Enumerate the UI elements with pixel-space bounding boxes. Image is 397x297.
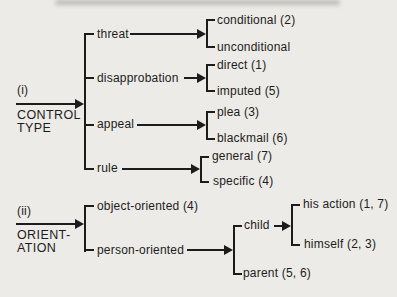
section-ii-index: (ii) [17, 205, 31, 218]
child-arrowhead-icon [282, 221, 291, 231]
leaf-general: general (7) [212, 150, 272, 163]
rule-bracket-bottom-tick [200, 181, 209, 183]
section-i-index: (i) [17, 84, 28, 97]
leaf-plea: plea (3) [217, 106, 259, 119]
leaf-imputed: imputed (5) [217, 85, 280, 98]
disapprobation-bracket-top-tick [206, 64, 215, 66]
leaf-unconditional: unconditional [217, 41, 290, 54]
section-i-title-line2: TYPE [17, 122, 51, 135]
leaf-specific: specific (4) [213, 175, 273, 188]
section-ii-root-arrow-line [16, 223, 75, 225]
rule-bracket-spine [200, 156, 202, 183]
branch-object-oriented-label: object-oriented (4) [97, 200, 198, 213]
person-oriented-tick [84, 249, 94, 251]
classification-tree-diagram: (i) CONTROL TYPE threat conditional (2) … [0, 0, 397, 297]
section-i-spine [84, 33, 86, 170]
leaf-conditional: conditional (2) [217, 14, 295, 27]
person-oriented-arrowhead-icon [224, 245, 233, 255]
object-oriented-tick [84, 205, 94, 207]
appeal-arrowhead-icon [197, 120, 206, 130]
section-ii-title-line2: ATION [17, 242, 56, 255]
branch-threat-label: threat [97, 28, 129, 41]
person-bracket-spine [233, 225, 235, 275]
threat-connector-line [130, 33, 197, 35]
threat-bracket-spine [206, 19, 208, 48]
leaf-direct: direct (1) [217, 59, 266, 72]
child-connector-line [274, 225, 282, 227]
child-bracket-bottom-tick [291, 244, 300, 246]
rule-arrowhead-icon [191, 164, 200, 174]
disapprobation-tick [84, 77, 94, 79]
child-bracket-spine [291, 204, 293, 246]
appeal-bracket-bottom-tick [206, 138, 215, 140]
section-i-root-arrow-line [16, 103, 75, 105]
leaf-parent: parent (5, 6) [243, 267, 311, 280]
rule-connector-line [122, 168, 191, 170]
appeal-tick [84, 124, 94, 126]
disapprobation-bracket-spine [206, 64, 208, 92]
child-tick [233, 225, 242, 227]
leaf-himself: himself (2, 3) [304, 238, 376, 251]
branch-appeal-label: appeal [97, 118, 134, 131]
parent-tick [233, 273, 242, 275]
section-ii-root-arrowhead-icon [75, 219, 84, 229]
threat-bracket-top-tick [206, 19, 215, 21]
rule-bracket-top-tick [200, 156, 209, 158]
threat-arrowhead-icon [197, 29, 206, 39]
appeal-bracket-spine [206, 111, 208, 140]
threat-bracket-bottom-tick [206, 46, 215, 48]
branch-disapprobation-label: disapprobation [97, 72, 179, 85]
leaf-blackmail: blackmail (6) [217, 132, 288, 145]
scan-smudge-artifact [55, 0, 340, 5]
disapprobation-connector-line [184, 77, 197, 79]
branch-person-oriented-label: person-oriented [97, 244, 184, 257]
leaf-his-action: his action (1, 7) [303, 198, 388, 211]
threat-tick [84, 33, 94, 35]
appeal-bracket-top-tick [206, 111, 215, 113]
disapprobation-arrowhead-icon [197, 73, 206, 83]
person-oriented-connector-line [187, 249, 224, 251]
child-bracket-top-tick [291, 204, 300, 206]
branch-child-label: child [244, 219, 270, 232]
appeal-connector-line [137, 124, 197, 126]
section-ii-spine [84, 205, 86, 252]
branch-rule-label: rule [97, 162, 118, 175]
disapprobation-bracket-bottom-tick [206, 90, 215, 92]
rule-tick [84, 168, 94, 170]
